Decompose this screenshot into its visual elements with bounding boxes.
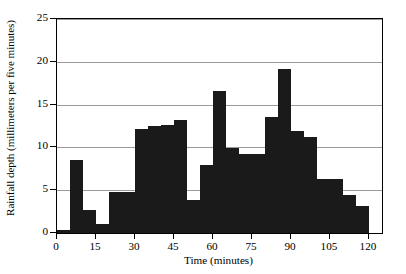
x-tick-mark bbox=[212, 233, 213, 239]
x-tick-label-text: 0 bbox=[36, 240, 76, 253]
x-tick-label: 60 bbox=[192, 240, 232, 253]
bar bbox=[317, 179, 330, 233]
x-tick-mark bbox=[251, 233, 252, 239]
bar bbox=[239, 154, 252, 233]
x-tick-label-text: 60 bbox=[192, 240, 232, 253]
bar bbox=[109, 192, 122, 233]
y-tick-label: 15 bbox=[0, 98, 48, 109]
bar bbox=[57, 230, 70, 233]
x-tick-mark bbox=[56, 233, 57, 239]
bar bbox=[304, 137, 317, 233]
bar bbox=[83, 210, 96, 233]
bar bbox=[200, 165, 213, 233]
x-tick-label-text: 30 bbox=[114, 240, 154, 253]
x-tick-mark bbox=[134, 233, 135, 239]
x-tick-mark bbox=[329, 233, 330, 239]
y-tick-label: 5 bbox=[0, 183, 48, 194]
plot-inner bbox=[57, 19, 382, 233]
y-tick-label: 25 bbox=[0, 12, 48, 23]
x-axis-title: Time (minutes) bbox=[56, 253, 381, 267]
bar bbox=[226, 148, 239, 233]
x-tick-mark bbox=[173, 233, 174, 239]
y-tick-label-text: 25 bbox=[4, 12, 48, 23]
bar bbox=[213, 91, 226, 233]
bar bbox=[161, 125, 174, 233]
y-tick-label-text: 15 bbox=[4, 98, 48, 109]
x-tick-label-text: 75 bbox=[231, 240, 271, 253]
bar bbox=[187, 200, 200, 233]
bar bbox=[252, 154, 265, 233]
x-tick-label: 15 bbox=[75, 240, 115, 253]
plot-area bbox=[56, 18, 383, 234]
gridline bbox=[57, 62, 382, 63]
x-tick-label-text: 45 bbox=[153, 240, 193, 253]
y-axis-title: Rainfall depth (millimeters per five min… bbox=[2, 2, 18, 234]
x-tick-label-text: 15 bbox=[75, 240, 115, 253]
x-tick-label: 0 bbox=[36, 240, 76, 253]
bar bbox=[148, 126, 161, 233]
bar bbox=[330, 179, 343, 233]
x-tick-label-text: 120 bbox=[348, 240, 388, 253]
y-tick-label: 20 bbox=[0, 55, 48, 66]
x-tick-label: 30 bbox=[114, 240, 154, 253]
x-tick-label-text: 105 bbox=[309, 240, 349, 253]
x-tick-mark bbox=[95, 233, 96, 239]
x-tick-label: 105 bbox=[309, 240, 349, 253]
x-tick-label: 90 bbox=[270, 240, 310, 253]
bar bbox=[174, 120, 187, 233]
rainfall-histogram-figure: Rainfall depth (millimeters per five min… bbox=[0, 0, 406, 274]
y-tick-label: 0 bbox=[0, 226, 48, 237]
bar bbox=[291, 131, 304, 233]
bar bbox=[265, 117, 278, 233]
bar bbox=[122, 192, 135, 233]
bar bbox=[135, 129, 148, 233]
y-tick-label-text: 0 bbox=[4, 226, 48, 237]
x-tick-label: 75 bbox=[231, 240, 271, 253]
y-tick-label-text: 10 bbox=[4, 140, 48, 151]
gridline bbox=[57, 19, 382, 20]
bar bbox=[343, 195, 356, 233]
x-tick-mark bbox=[368, 233, 369, 239]
x-tick-label: 120 bbox=[348, 240, 388, 253]
bar bbox=[70, 160, 83, 233]
y-tick-label: 10 bbox=[0, 140, 48, 151]
x-tick-label: 45 bbox=[153, 240, 193, 253]
x-tick-mark bbox=[290, 233, 291, 239]
bar bbox=[356, 206, 369, 233]
bar bbox=[278, 69, 291, 233]
y-tick-label-text: 5 bbox=[4, 183, 48, 194]
bar bbox=[96, 224, 109, 233]
x-tick-label-text: 90 bbox=[270, 240, 310, 253]
y-tick-label-text: 20 bbox=[4, 55, 48, 66]
